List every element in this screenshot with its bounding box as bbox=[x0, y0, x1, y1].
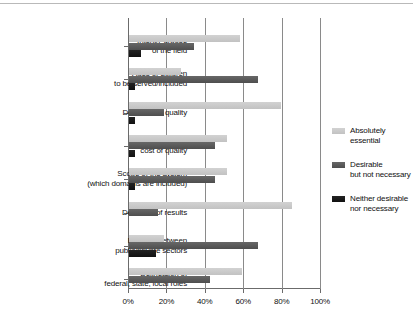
legend-swatch-icon bbox=[332, 162, 345, 168]
bar bbox=[129, 268, 242, 275]
bar-group: Ages of childrento be served/included bbox=[128, 68, 320, 90]
bar-group: Intent/Purposeof the field bbox=[128, 35, 320, 57]
x-tick-label: 60% bbox=[235, 297, 250, 306]
plot-area: 0%20%40%60%80%100% Intent/Purposeof the … bbox=[128, 18, 320, 289]
x-tick-label: 20% bbox=[159, 297, 174, 306]
legend-label: Absolutely essential bbox=[350, 126, 413, 145]
bar bbox=[129, 76, 258, 83]
bar bbox=[129, 250, 156, 257]
legend-label: Neither desirablenor necessary bbox=[350, 194, 413, 213]
legend-label-line: but not necessary bbox=[350, 170, 411, 179]
bar bbox=[129, 68, 181, 75]
x-tick-100% bbox=[320, 289, 321, 293]
bar bbox=[129, 43, 194, 50]
bar bbox=[129, 150, 135, 157]
category-label: Definition of results bbox=[69, 208, 187, 218]
bar bbox=[129, 35, 240, 42]
bar bbox=[129, 117, 135, 124]
bar-group: Definition of thecost of quality bbox=[128, 135, 320, 157]
x-tick-label: 80% bbox=[274, 297, 289, 306]
legend-label-line: Absolutely essential bbox=[350, 126, 385, 145]
bar-group: Delineation offederal, state, local role… bbox=[128, 268, 320, 290]
bar bbox=[129, 209, 158, 216]
bar-group: Definition of quality bbox=[128, 102, 320, 124]
legend-item: Absolutely essential bbox=[332, 126, 413, 145]
bar bbox=[129, 109, 164, 116]
legend-item: Desirablebut not necessary bbox=[332, 160, 413, 179]
bar bbox=[129, 135, 227, 142]
bar bbox=[129, 83, 135, 90]
gridline-100% bbox=[320, 18, 321, 289]
bar-group: Scope of the system(which domains are in… bbox=[128, 168, 320, 190]
bar bbox=[129, 242, 258, 249]
x-tick-label: 100% bbox=[310, 297, 330, 306]
x-tick-label: 40% bbox=[197, 297, 212, 306]
bar-group: Definition of results bbox=[128, 202, 320, 224]
bar bbox=[129, 50, 141, 57]
chart-page: 0%20%40%60%80%100% Intent/Purposeof the … bbox=[0, 0, 413, 316]
x-tick-label: 0% bbox=[122, 297, 133, 306]
bar bbox=[129, 183, 135, 190]
bar-group: Balance betweenpublic/private sectors bbox=[128, 235, 320, 257]
chart-legend: Absolutely essentialDesirablebut not nec… bbox=[332, 126, 413, 228]
legend-item: Neither desirablenor necessary bbox=[332, 194, 413, 213]
bar bbox=[129, 102, 281, 109]
category-label: Definition of quality bbox=[69, 108, 187, 118]
legend-swatch-icon bbox=[332, 128, 345, 134]
page-top-rule bbox=[0, 3, 413, 4]
legend-swatch-icon bbox=[332, 196, 345, 202]
bar bbox=[129, 235, 164, 242]
bar bbox=[129, 276, 210, 283]
bar bbox=[129, 202, 292, 209]
legend-label: Desirablebut not necessary bbox=[350, 160, 413, 179]
legend-label-line: Desirable bbox=[350, 160, 382, 169]
legend-label-line: nor necessary bbox=[350, 204, 398, 213]
legend-label-line: Neither desirable bbox=[350, 194, 408, 203]
bar bbox=[129, 176, 215, 183]
bar bbox=[129, 168, 227, 175]
bar bbox=[129, 142, 215, 149]
